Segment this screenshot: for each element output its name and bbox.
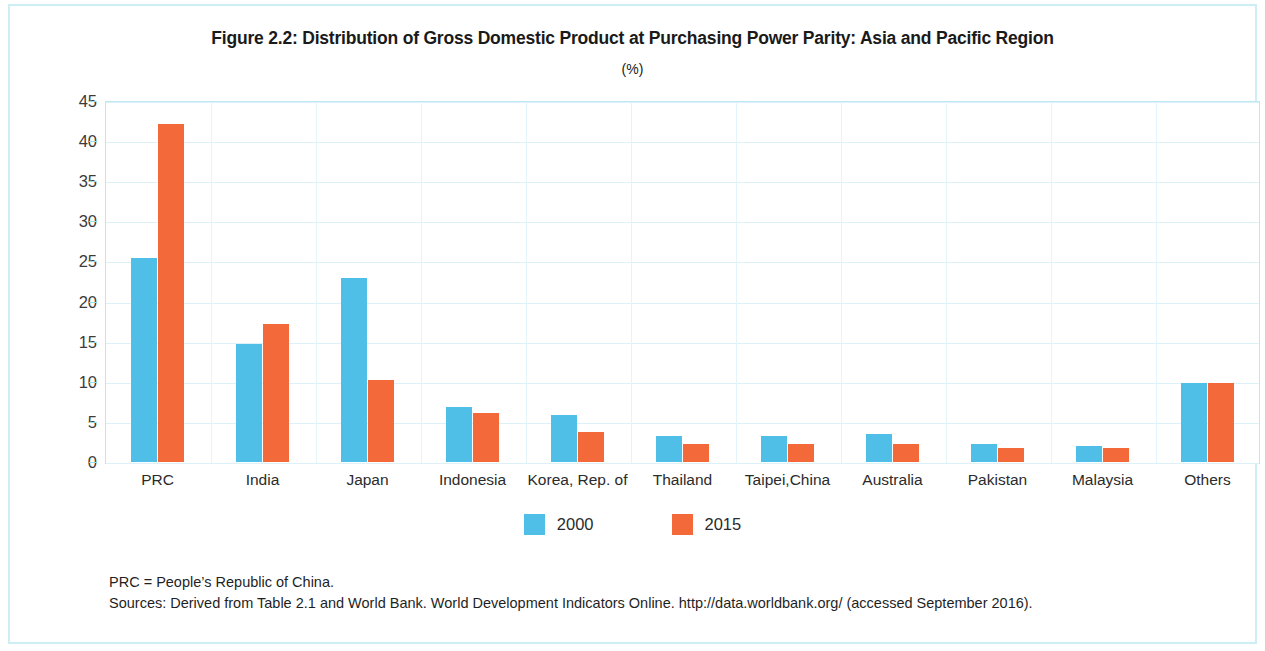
y-axis-tick-mark [89, 101, 97, 102]
bar-2015[interactable] [473, 413, 499, 462]
bar-group [446, 101, 499, 462]
note-sources: Sources: Derived from Table 2.1 and Worl… [109, 593, 1235, 614]
y-axis-tick-mark [89, 462, 97, 463]
y-axis-tick-mark [89, 261, 97, 262]
bar-2015[interactable] [683, 444, 709, 462]
legend-swatch-2015-icon [672, 514, 693, 535]
figure-notes: PRC = People’s Republic of China. Source… [109, 572, 1235, 615]
x-axis-label: Thailand [653, 471, 712, 489]
x-axis-label: Malaysia [1072, 471, 1133, 489]
bar-2000[interactable] [131, 258, 157, 462]
bar-2015[interactable] [263, 324, 289, 462]
x-axis-label: Japan [346, 471, 388, 489]
y-axis-tick-mark [89, 181, 97, 182]
bar-2015[interactable] [788, 444, 814, 462]
note-abbreviation: PRC = People’s Republic of China. [109, 572, 1235, 593]
bar-2000[interactable] [236, 344, 262, 462]
legend-swatch-2000-icon [524, 514, 545, 535]
y-axis: 051015202530354045 [10, 101, 97, 462]
figure-title: Figure 2.2: Distribution of Gross Domest… [10, 28, 1255, 49]
x-axis-label: India [246, 471, 280, 489]
x-axis-label: PRC [141, 471, 174, 489]
bar-2015[interactable] [368, 380, 394, 462]
x-axis-label: Australia [862, 471, 922, 489]
x-axis-labels: PRCIndiaJapanIndonesiaKorea, Rep. ofThai… [105, 471, 1260, 497]
bars-layer [105, 101, 1260, 462]
bar-2015[interactable] [998, 448, 1024, 462]
bar-2000[interactable] [341, 278, 367, 462]
bar-2015[interactable] [158, 124, 184, 462]
bar-2015[interactable] [1103, 448, 1129, 462]
legend-item-2015[interactable]: 2015 [672, 514, 742, 535]
bar-group [866, 101, 919, 462]
x-axis-label: Korea, Rep. of [528, 471, 628, 489]
bar-group [551, 101, 604, 462]
bar-2000[interactable] [446, 407, 472, 462]
bar-2000[interactable] [866, 434, 892, 462]
bar-2000[interactable] [551, 415, 577, 462]
legend-label-2015: 2015 [705, 515, 742, 534]
y-axis-tick-mark [89, 382, 97, 383]
y-axis-tick-mark [89, 422, 97, 423]
bar-group [761, 101, 814, 462]
bar-group [341, 101, 394, 462]
y-axis-tick-mark [89, 342, 97, 343]
legend-item-2000[interactable]: 2000 [524, 514, 594, 535]
x-axis-label: Indonesia [439, 471, 506, 489]
bar-2000[interactable] [761, 436, 787, 462]
bar-2000[interactable] [1076, 446, 1102, 462]
gridline [106, 463, 1259, 464]
chart-plot: 051015202530354045 PRCIndiaJapanIndonesi… [105, 92, 1260, 467]
chart-legend: 2000 2015 [10, 514, 1255, 535]
bar-group [1076, 101, 1129, 462]
figure-frame: Figure 2.2: Distribution of Gross Domest… [8, 4, 1257, 644]
bar-2000[interactable] [656, 436, 682, 462]
legend-label-2000: 2000 [557, 515, 594, 534]
bar-2015[interactable] [578, 432, 604, 462]
bar-2015[interactable] [893, 444, 919, 462]
bar-group [656, 101, 709, 462]
y-axis-tick-mark [89, 221, 97, 222]
bar-2000[interactable] [1181, 383, 1207, 462]
bar-2015[interactable] [1208, 383, 1234, 462]
x-axis-label: Pakistan [968, 471, 1027, 489]
bar-2000[interactable] [971, 444, 997, 462]
bar-group [1181, 101, 1234, 462]
x-axis-label: Others [1184, 471, 1231, 489]
bar-group [971, 101, 1024, 462]
x-axis-label: Taipei,China [745, 471, 830, 489]
y-axis-tick-mark [89, 141, 97, 142]
y-axis-tick-mark [89, 302, 97, 303]
bar-group [236, 101, 289, 462]
bar-group [131, 101, 184, 462]
figure-subtitle: (%) [10, 61, 1255, 77]
